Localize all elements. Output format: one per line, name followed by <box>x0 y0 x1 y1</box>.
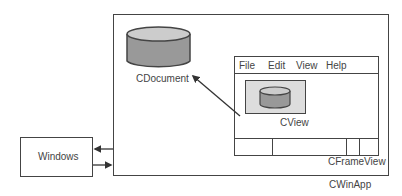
cview-cylinder-icon <box>260 87 290 108</box>
cdocument-label: CDocument <box>136 73 189 84</box>
cframeview-label: CFrameView <box>328 156 386 167</box>
view-to-document-arrow <box>193 76 240 116</box>
cdocument-cylinder-icon <box>127 27 190 67</box>
cwinapp-label: CWinApp <box>329 179 371 190</box>
cview-label: CView <box>280 117 309 128</box>
